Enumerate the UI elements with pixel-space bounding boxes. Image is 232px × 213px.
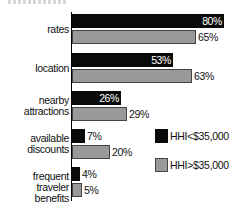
value-label: 53% (143, 53, 171, 67)
legend-label: HHI<$35,000 (170, 130, 229, 142)
bar-high-income (72, 69, 192, 83)
category-label: frequenttraveler benefits (0, 171, 69, 204)
bar-high-income (72, 183, 82, 197)
cropped-title (8, 0, 68, 4)
category-label: nearbyattractions (24, 95, 69, 117)
value-label: 26% (91, 91, 119, 105)
value-label: 7% (87, 129, 101, 143)
category-label: rates (47, 24, 69, 35)
value-label: 5% (84, 183, 98, 197)
legend-swatch-dark (155, 129, 168, 143)
bar-low-income (72, 129, 85, 143)
value-label: 63% (194, 69, 214, 83)
legend-item-high-income: HHI>$35,000 (155, 158, 229, 172)
value-label: 4% (82, 167, 96, 181)
category-label: availablediscounts (27, 133, 69, 155)
category-label: location (35, 63, 69, 74)
value-label: 20% (112, 145, 132, 159)
value-label: 29% (129, 107, 149, 121)
value-label: 80% (194, 14, 222, 28)
legend-item-low-income: HHI<$35,000 (155, 129, 229, 143)
bar-high-income (72, 30, 196, 44)
bar-low-income (72, 167, 80, 181)
bar-high-income (72, 145, 110, 159)
legend-label: HHI>$35,000 (170, 159, 229, 171)
bar-high-income (72, 107, 127, 121)
value-label: 65% (198, 30, 218, 44)
legend-swatch-dotted (155, 158, 168, 172)
